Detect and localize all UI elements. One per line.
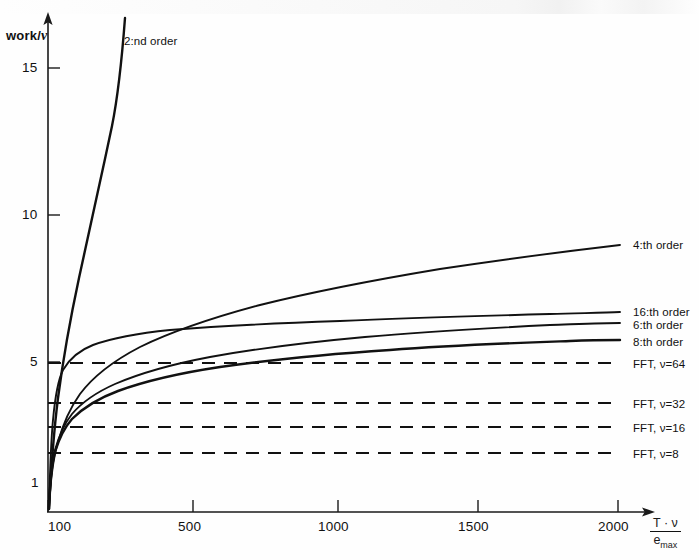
series-line-eighth-order bbox=[49, 340, 620, 509]
x-tick-label-100: 100 bbox=[48, 519, 71, 534]
x-tick-label-1000: 1000 bbox=[318, 519, 349, 534]
series-label-sixth-order: 6:th order bbox=[633, 319, 683, 331]
x-tick-label-2000: 2000 bbox=[598, 519, 629, 534]
x-axis-title-denominator-subscript: max bbox=[660, 540, 677, 550]
series-label-eighth-order: 8:th order bbox=[633, 336, 683, 348]
plot-area bbox=[0, 0, 699, 560]
series-label-fft-16: FFT, ν=16 bbox=[633, 422, 685, 434]
y-axis-title: work/ν bbox=[6, 28, 47, 44]
x-tick-label-1500: 1500 bbox=[458, 519, 489, 534]
x-axis bbox=[47, 500, 655, 517]
series-label-fft-8: FFT, ν=8 bbox=[633, 448, 679, 460]
y-tick-label-15: 15 bbox=[22, 60, 37, 75]
x-axis-title-denominator: emax bbox=[650, 532, 681, 550]
series-label-second-order: 2:nd order bbox=[124, 35, 177, 47]
series-label-fourth-order: 4:th order bbox=[633, 239, 683, 251]
y-axis-title-text: work/ bbox=[6, 28, 41, 43]
x-tick-label-500: 500 bbox=[178, 519, 201, 534]
x-axis-title: T · ν emax bbox=[650, 516, 681, 550]
y-tick-label-5: 5 bbox=[30, 354, 38, 369]
series-line-sixteenth-order bbox=[49, 312, 620, 506]
figure-canvas: work/ν 15 10 5 1 100 500 1000 1500 2000 … bbox=[0, 0, 699, 560]
y-axis-title-symbol: ν bbox=[41, 28, 47, 43]
series-label-fft-32: FFT, ν=32 bbox=[633, 398, 685, 410]
y-tick-label-10: 10 bbox=[22, 207, 37, 222]
y-tick-label-1: 1 bbox=[31, 475, 39, 490]
series-label-sixteenth-order: 16:th order bbox=[633, 306, 690, 318]
series-label-fft-64: FFT, ν=64 bbox=[633, 358, 685, 370]
x-axis-title-numerator: T · ν bbox=[650, 516, 681, 532]
